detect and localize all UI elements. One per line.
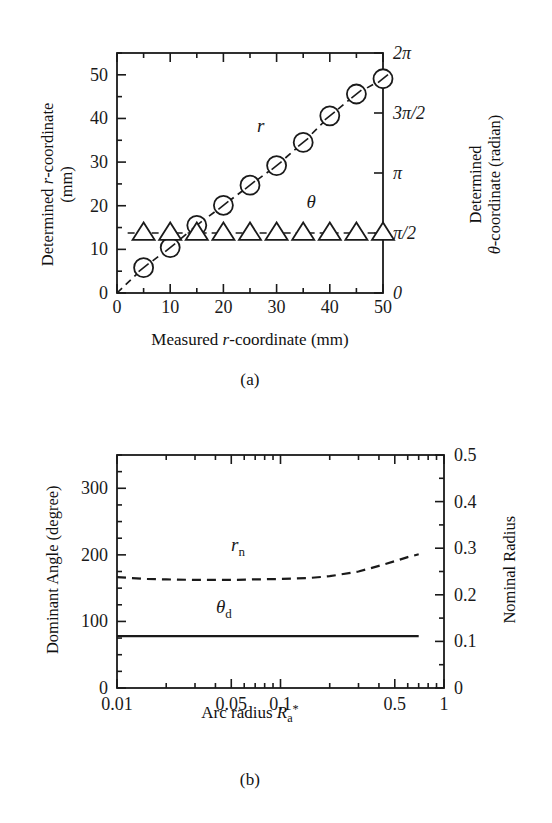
panel-b: Dominant Angle (degree) Nominal Radius 0… [0, 410, 552, 823]
panel-b-annotation-theta-d: θd [216, 596, 232, 621]
panel-a-annotation-r: r [257, 115, 265, 136]
panel-a-ytick-right-label: 2π [393, 43, 412, 63]
panel-b-x-axis-label: Arc radius Ra* [0, 702, 500, 725]
panel-a-xtick-label: 10 [161, 297, 179, 317]
panel-b-ytick-right-label: 0.4 [454, 492, 477, 512]
panel-b-ticks [117, 455, 444, 688]
panel-a-xtick-label: 30 [268, 297, 286, 317]
panel-a-xtick-label: 50 [374, 297, 392, 317]
panel-a-ytick-label: 40 [90, 108, 108, 128]
panel-b-ytick-label: 200 [81, 545, 108, 565]
panel-a-xtick-label: 40 [321, 297, 339, 317]
panel-a-x-axis-label: Measured r-coordinate (mm) [0, 330, 500, 350]
panel-b-ytick-right-label: 0.1 [454, 631, 477, 651]
panel-a: Determined r-coordinate (mm) Determined … [0, 0, 552, 420]
panel-b-right-axis-label: Nominal Radius [500, 455, 519, 685]
panel-b-ytick-right-label: 0 [454, 678, 463, 698]
panel-b-frame [117, 455, 444, 688]
panel-a-xtick-label: 20 [214, 297, 232, 317]
panel-a-marker-triangle [372, 223, 394, 240]
panel-a-ytick-label: 30 [90, 152, 108, 172]
panel-a-marker-triangle [159, 223, 181, 240]
figure-root: Determined r-coordinate (mm) Determined … [0, 0, 552, 823]
panel-a-marker-triangle [345, 223, 367, 240]
panel-b-left-axis-label: Dominant Angle (degree) [43, 455, 62, 685]
panel-a-ytick-label: 0 [99, 283, 108, 303]
panel-a-marker-triangle [319, 223, 341, 240]
panel-a-right-axis-label: Determined θ-coordinate (radian) [466, 59, 505, 309]
panel-b-annotations: rnθd [216, 534, 246, 621]
panel-a-marker-triangle [133, 223, 155, 240]
panel-b-ytick-right-label: 0.3 [454, 538, 477, 558]
panel-b-ytick-right-label: 0.5 [454, 445, 477, 465]
panel-a-marker-triangle [292, 223, 314, 240]
panel-b-plot: 0.010.050.10.51010020030000.10.20.30.40.… [0, 410, 552, 710]
panel-a-ytick-right-label: π/2 [393, 223, 416, 243]
panel-b-ytick-label: 100 [81, 611, 108, 631]
panel-b-tick-labels: 0.010.050.10.51010020030000.10.20.30.40.… [81, 445, 477, 710]
panel-b-ytick-right-label: 0.2 [454, 585, 477, 605]
panel-a-ytick-right-label: π [393, 163, 403, 183]
panel-a-marker-triangle [212, 223, 234, 240]
panel-a-ytick-right-label: 3π/2 [392, 103, 425, 123]
panel-b-ytick-label: 0 [99, 678, 108, 698]
panel-b-rn-curve [117, 554, 419, 580]
panel-b-axes-box [117, 455, 444, 688]
panel-b-data [117, 554, 419, 636]
panel-a-marker-triangle [239, 223, 261, 240]
panel-a-annotation-theta: θ [307, 191, 316, 212]
panel-b-caption: (b) [0, 770, 500, 790]
panel-a-ytick-label: 10 [90, 239, 108, 259]
panel-a-ytick-label: 20 [90, 196, 108, 216]
panel-a-ytick-label: 50 [90, 65, 108, 85]
panel-a-caption: (a) [0, 370, 500, 390]
panel-a-data [117, 69, 394, 293]
panel-a-ytick-right-label: 0 [393, 283, 402, 303]
panel-b-ytick-label: 300 [81, 478, 108, 498]
panel-a-marker-triangle [266, 223, 288, 240]
panel-b-annotation-rn: rn [231, 534, 245, 559]
panel-a-xtick-label: 0 [113, 297, 122, 317]
panel-a-left-axis-label: Determined r-coordinate (mm) [38, 69, 77, 299]
